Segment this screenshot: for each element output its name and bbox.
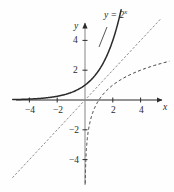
x-tick-label-neg4: −4: [25, 106, 35, 116]
y-tick-label-neg4: −4: [69, 156, 79, 166]
x-axis-label: x: [163, 103, 167, 113]
curve-label-text: y = 2: [104, 10, 124, 20]
x-tick-label-neg2: −2: [53, 106, 63, 116]
curve-two-to-the-x: [13, 10, 121, 100]
y-tick-label-neg2: −2: [69, 126, 79, 136]
axes-group: [16, 23, 162, 185]
x-tick-label-4: 4: [139, 106, 144, 116]
curve-label-leader-line: [99, 27, 107, 47]
y-tick-label-2: 2: [73, 66, 78, 76]
x-tick-label-2: 2: [111, 106, 116, 116]
exponential-log-figure: y = 2x x y −4 −2 2 4 4 2 −2 −4: [0, 0, 174, 192]
curve-log-base-2: [85, 61, 169, 183]
plot-canvas: [0, 0, 174, 192]
y-tick-label-4: 4: [73, 36, 78, 46]
curve-label-exponent: x: [124, 8, 127, 15]
curve-label-exponential: y = 2x: [104, 11, 127, 21]
y-axis-label: y: [74, 22, 78, 32]
